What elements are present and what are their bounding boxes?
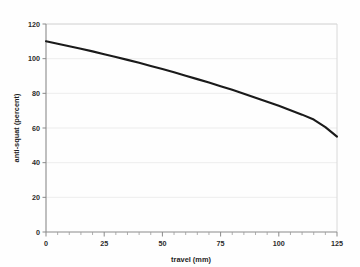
y-tick-label-0: 0	[36, 228, 40, 237]
x-tick-label-50: 50	[158, 239, 166, 248]
anti-squat-vs-travel-chart: 020406080100120 0255075100125 travel (mm…	[0, 0, 360, 267]
x-tick-label-125: 125	[331, 239, 343, 248]
y-tick-label-20: 20	[32, 193, 40, 202]
x-axis-ticks-group	[46, 232, 337, 237]
y-tick-label-60: 60	[32, 124, 40, 133]
x-tick-label-100: 100	[273, 239, 285, 248]
y-axis-title: anti-squat (percent)	[12, 93, 21, 163]
y-tick-label-80: 80	[32, 89, 40, 98]
x-tick-label-25: 25	[100, 239, 108, 248]
y-axis-tick-labels-group: 020406080100120	[28, 20, 40, 237]
y-tick-label-120: 120	[28, 20, 40, 29]
x-axis-tick-labels-group: 0255075100125	[44, 239, 343, 248]
y-tick-label-40: 40	[32, 158, 40, 167]
chart-container: 020406080100120 0255075100125 travel (mm…	[0, 0, 360, 267]
x-tick-label-75: 75	[217, 239, 225, 248]
x-axis-title: travel (mm)	[171, 255, 211, 264]
anti-squat-series-line	[46, 41, 337, 136]
y-tick-label-100: 100	[28, 54, 40, 63]
x-tick-label-0: 0	[44, 239, 48, 248]
